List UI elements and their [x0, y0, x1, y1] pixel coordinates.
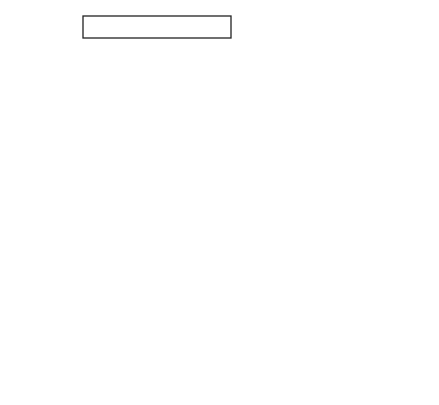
diet-box — [83, 16, 231, 38]
nitrogen-flow-diagram — [0, 0, 439, 405]
